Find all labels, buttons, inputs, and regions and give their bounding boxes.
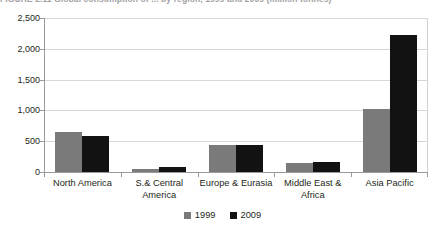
y-tick-label: 500 [0,137,40,146]
x-tick-mark [44,173,45,177]
chart-legend: 19992009 [0,209,445,223]
x-label-north-america: North America [44,178,121,190]
x-tick-mark [198,173,199,177]
y-tick-mark [40,110,44,111]
y-tick-label: 2,000 [0,45,40,54]
plot-area [44,18,428,173]
legend-label: 1999 [195,211,216,220]
legend-item-1999[interactable]: 1999 [184,211,216,220]
y-tick-mark [40,80,44,81]
bar-2009-middle-east-africa [313,162,340,172]
x-label-europe-eurasia: Europe & Eurasia [198,178,275,190]
figure-title-strip: FIGURE 2.11 Global consumption of ... by… [0,0,445,5]
x-tick-mark [121,173,122,177]
bar-1999-north-america [55,132,82,172]
legend-item-2009[interactable]: 2009 [230,211,262,220]
bars-layer [44,18,428,173]
bar-2009-north-america [82,136,109,172]
y-axis-labels: 05001,0001,5002,0002,500 [0,18,40,173]
x-tick-mark [351,173,352,177]
x-label-middle-east-africa: Middle East & Africa [274,178,351,201]
bar-1999-middle-east-africa [286,163,313,172]
y-tick-label: 1,000 [0,106,40,115]
x-tick-mark [274,173,275,177]
figure-container: FIGURE 2.11 Global consumption of ... by… [0,0,445,230]
bar-1999-europe-eurasia [209,145,236,172]
y-tick-mark [40,141,44,142]
figure-title: FIGURE 2.11 Global consumption of ... by… [0,0,445,5]
bar-1999-asia-pacific [363,109,390,172]
y-tick-label: 2,500 [0,14,40,23]
bar-2009-europe-eurasia [236,145,263,172]
x-axis-category-labels: North AmericaS.& Central AmericaEurope &… [44,178,428,206]
legend-swatch-icon [184,212,191,219]
y-tick-mark [40,18,44,19]
x-label-asia-pacific: Asia Pacific [351,178,428,190]
x-tick-mark [427,173,428,177]
y-tick-mark [40,49,44,50]
y-tick-label: 0 [0,168,40,177]
y-axis-line [44,18,45,173]
legend-swatch-icon [230,212,237,219]
x-label-s-central-america: S.& Central America [121,178,198,201]
y-tick-label: 1,500 [0,76,40,85]
x-axis-ticks [44,173,428,177]
legend-label: 2009 [241,211,262,220]
bar-2009-asia-pacific [390,35,417,172]
